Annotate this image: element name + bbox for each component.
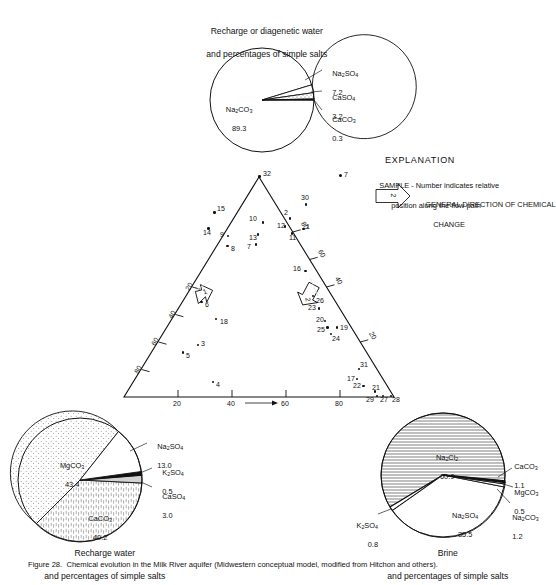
ternary-sample-label: 24 [332,335,340,342]
leader-right-k2so4 [378,509,391,514]
explanation-sample-line1: SAMPLE - Number indicates relative [379,181,499,190]
ternary-sample-label: 25 [317,326,325,333]
ternary-sample-label: 30 [301,194,309,201]
left-pie-label-caso4-formula: CaSO4 [162,492,185,501]
right-pie-label-na2cl2-formula: Na2Cl2 [436,453,458,462]
ternary-sample-label: 16 [293,265,301,272]
top-pie-title-line2: and percentages of simple salts [206,49,327,59]
left-pie-label-k2so4-formula: K2SO4 [162,468,184,477]
ternary-sample-label: 31 [360,361,368,368]
ternary-bottom-tick-label: 20 [173,400,181,407]
leader-left-caso4 [141,482,152,487]
right-pie-label-na2so4-formula: Na2SO4 [452,511,478,520]
right-pie-label-mgco3-formula: MgCO3 [514,488,538,497]
ternary-sample-label: 22 [353,382,361,389]
top-pie-label-na2so4-formula: Na2SO4 [332,69,358,78]
top-pie-value-na2co3: 89.3 [232,124,246,133]
explanation-sample-number: 7 [344,171,348,178]
ternary-sample-label: 6 [205,301,209,308]
ternary-sample-dot [326,326,329,329]
ternary-sample-label: 18 [220,318,228,325]
left-pie-value-caso4: 3.0 [162,511,172,520]
left-pie-label-mgco3-formula: MgCO3 [60,461,84,470]
ternary-sample-label: 26 [316,297,324,304]
ternary-sample-label: 11 [289,234,296,241]
ternary-sample-dot [258,175,261,178]
ternary-sample-label: 19 [340,324,348,331]
right-pie-label-na2cl2: Na2Cl2 60.9 [412,444,474,490]
ternary-sample-label: 13 [249,234,257,241]
left-pie-title-line1: Recharge water [74,548,135,558]
ternary-sample-label: 23 [308,304,316,311]
explanation-heading: EXPLANATION [385,155,455,165]
ternary-sample-label: 7 [247,243,251,250]
ternary-sample-label: 29 [366,396,374,403]
ternary-bottom-tick-label: 80 [335,400,343,407]
ternary-sample-label: 8 [231,245,235,252]
ternary-sample-label: 17 [347,375,355,382]
left-pie-label-mgco3: MgCO3 43.4 [38,452,98,498]
top-pie-label-caco3-formula: CaCO3 [332,115,356,124]
explanation-direction-text: GENERAL DIRECTION OF CHEMICAL CHANGE [417,190,556,240]
legend-sample-dot [339,174,342,177]
top-pie-label-na2co3-formula: Na2CO3 [226,105,252,114]
ternary-bottom-ticks [178,390,340,397]
explanation-arrow-number: 2 [390,194,397,198]
ternary-right-ticks [293,230,369,342]
top-pie-value-caco3: 0.3 [332,134,342,143]
right-pie-title-line1: Brine [438,548,458,558]
top-pie-label-caso4-formula: CaSO4 [332,93,355,102]
ternary-sample-label: 15 [217,205,225,212]
figure-caption: Figure 28. Chemical evolution in the Mil… [28,560,528,575]
ternary-sample-label: 3 [201,340,205,347]
explanation-direction-line1: GENERAL DIRECTION OF CHEMICAL [425,200,555,209]
ternary-bottom-tick-label: 40 [227,400,235,407]
left-pie-label-caso4: CaSO4 3.0 [154,483,216,529]
ternary-sample-label: 10 [249,215,257,222]
right-pie-label-caco3-formula: CaCO3 [514,462,538,471]
ternary-sample-label: 28 [392,396,400,403]
ternary-sample-dot [213,211,216,214]
ternary-sample-label: 27 [380,396,388,403]
ternary-sample-label: 12 [277,222,285,229]
ternary-sample-label: 21 [372,384,380,391]
bottom-axis-direction-arrow [245,400,278,405]
ternary-sample-label: 2 [284,209,288,216]
ternary-sample-label: 4 [216,381,220,388]
ternary-sample-label: 32 [263,170,271,177]
ternary-left-ticks [142,287,201,372]
ternary-diagram [124,177,394,406]
top-pie-title-line1: Recharge or diagenetic water [211,26,323,36]
left-pie-value-mgco3: 43.4 [65,480,79,489]
left-pie-label-caco3-formula: CaCO3 [88,514,112,523]
ternary-sample-label: 20 [316,316,324,323]
ternary-bottom-tick-label: 60 [281,400,289,407]
ternary-outline [124,177,394,397]
ternary-sample-label: 5 [186,352,190,359]
right-pie-label-na2co3-formula: Na2CO3 [512,513,538,522]
ternary-sample-label: 9 [220,231,224,238]
right-pie-value-na2cl2: 60.9 [440,472,454,481]
right-pie-label-k2so4-formula: K2SO4 [356,521,378,530]
left-pie-label-na2so4-formula: Na2SO4 [157,442,183,451]
top-pie-label-caco3: CaCO3 0.3 [324,106,384,152]
top-pie-label-na2co3: Na2CO3 89.3 [205,96,265,142]
explanation-direction-line2: CHANGE [425,220,465,229]
ternary-sample-label: 1 [306,223,310,230]
ternary-sample-label: 14 [203,229,211,236]
